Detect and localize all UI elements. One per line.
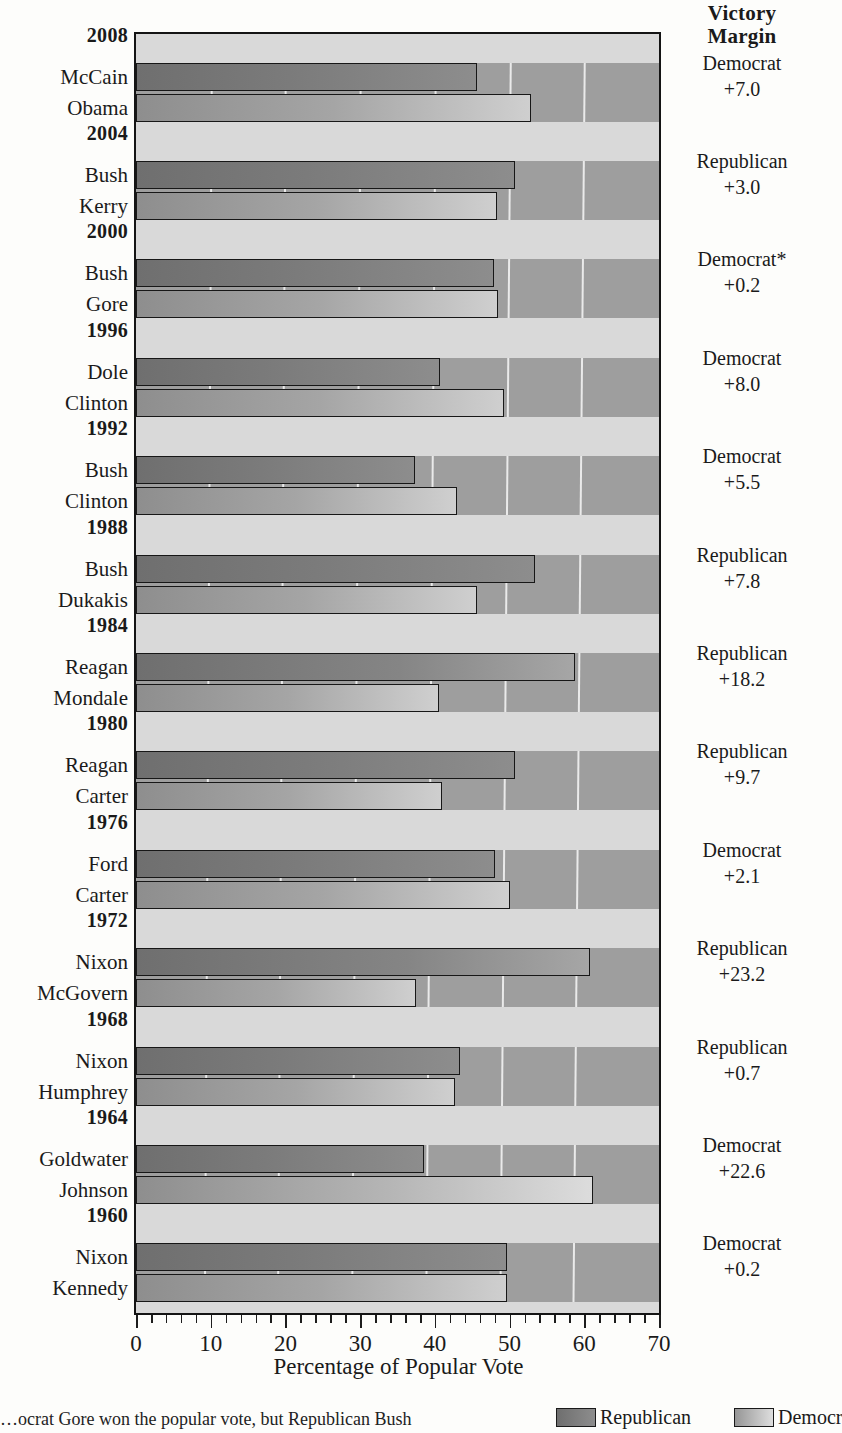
bar-democrat-2000 bbox=[136, 290, 498, 318]
candidate-label-democrat-1968: Humphrey bbox=[2, 1082, 128, 1103]
x-tick-28 bbox=[345, 1315, 347, 1323]
x-tick-62 bbox=[599, 1315, 601, 1323]
candidate-label-democrat-1972: McGovern bbox=[2, 983, 128, 1004]
bar-republican-2008 bbox=[136, 63, 477, 91]
candidate-label-republican-2000: Bush bbox=[2, 263, 128, 284]
victory-margin-value-2008: +7.0 bbox=[663, 78, 821, 100]
candidate-label-republican-1968: Nixon bbox=[2, 1051, 128, 1072]
year-label-2008: 2008 bbox=[2, 25, 128, 45]
victory-margin-party-1964: Democrat bbox=[663, 1134, 821, 1156]
x-tick-2 bbox=[151, 1315, 153, 1323]
x-tick-50 bbox=[510, 1315, 512, 1328]
victory-margin-value-2000: +0.2 bbox=[663, 274, 821, 296]
candidate-label-democrat-2004: Kerry bbox=[2, 196, 128, 217]
victory-margin-party-1980: Republican bbox=[663, 740, 821, 762]
candidate-label-democrat-1984: Mondale bbox=[2, 688, 128, 709]
row-band bbox=[136, 1116, 659, 1145]
x-tick-46 bbox=[480, 1315, 482, 1323]
x-tick-32 bbox=[375, 1315, 377, 1323]
bar-democrat-1980 bbox=[136, 782, 442, 810]
x-tick-30 bbox=[360, 1315, 362, 1328]
row-band bbox=[136, 1302, 659, 1313]
x-tick-58 bbox=[569, 1315, 571, 1323]
victory-margin-party-1996: Democrat bbox=[663, 347, 821, 369]
legend-label-republican: Republican bbox=[600, 1406, 691, 1428]
x-tick-6 bbox=[181, 1315, 183, 1323]
victory-margin-party-1968: Republican bbox=[663, 1036, 821, 1058]
year-label-2000: 2000 bbox=[2, 221, 128, 241]
bar-republican-1960 bbox=[136, 1243, 507, 1271]
x-tick-16 bbox=[256, 1315, 258, 1323]
candidate-label-republican-1984: Reagan bbox=[2, 657, 128, 678]
row-band bbox=[136, 428, 659, 457]
victory-margin-value-1980: +9.7 bbox=[663, 766, 821, 788]
candidate-label-republican-1972: Nixon bbox=[2, 952, 128, 973]
row-band bbox=[136, 417, 659, 428]
chart-footnote: …ocrat Gore won the popular vote, but Re… bbox=[0, 1408, 540, 1430]
candidate-label-democrat-1996: Clinton bbox=[2, 393, 128, 414]
x-tick-66 bbox=[629, 1315, 631, 1323]
legend-label-democrat: Democr bbox=[778, 1406, 842, 1428]
row-band bbox=[136, 1204, 659, 1215]
row-band bbox=[136, 231, 659, 260]
victory-margin-value-1960: +0.2 bbox=[663, 1258, 821, 1280]
bar-republican-1984 bbox=[136, 653, 575, 681]
bar-democrat-2004 bbox=[136, 192, 497, 220]
candidate-label-republican-2004: Bush bbox=[2, 165, 128, 186]
candidate-label-democrat-2008: Obama bbox=[2, 98, 128, 119]
bar-republican-1976 bbox=[136, 850, 495, 878]
year-label-1996: 1996 bbox=[2, 320, 128, 340]
bar-democrat-1968 bbox=[136, 1078, 455, 1106]
bar-democrat-1984 bbox=[136, 684, 439, 712]
victory-margin-party-2008: Democrat bbox=[663, 52, 821, 74]
victory-margin-value-1996: +8.0 bbox=[663, 373, 821, 395]
chart-plot-inner bbox=[136, 34, 659, 1313]
bar-republican-1988 bbox=[136, 555, 535, 583]
row-band bbox=[136, 329, 659, 358]
victory-margin-value-1988: +7.8 bbox=[663, 570, 821, 592]
row-band bbox=[136, 515, 659, 526]
candidate-label-republican-1960: Nixon bbox=[2, 1247, 128, 1268]
x-tick-18 bbox=[270, 1315, 272, 1323]
x-tick-label-60: 60 bbox=[554, 1331, 614, 1356]
row-band bbox=[136, 1106, 659, 1117]
year-label-1976: 1976 bbox=[2, 812, 128, 832]
x-tick-22 bbox=[300, 1315, 302, 1323]
candidate-label-democrat-1964: Johnson bbox=[2, 1180, 128, 1201]
x-tick-label-20: 20 bbox=[255, 1331, 315, 1356]
legend-item-democrat: Democr bbox=[734, 1406, 842, 1430]
x-tick-label-40: 40 bbox=[405, 1331, 465, 1356]
candidate-label-republican-1964: Goldwater bbox=[2, 1149, 128, 1170]
victory-margin-party-1992: Democrat bbox=[663, 445, 821, 467]
bar-republican-1968 bbox=[136, 1047, 460, 1075]
year-label-1992: 1992 bbox=[2, 418, 128, 438]
row-band bbox=[136, 220, 659, 231]
row-band bbox=[136, 318, 659, 329]
year-label-1980: 1980 bbox=[2, 713, 128, 733]
x-tick-4 bbox=[166, 1315, 168, 1323]
x-tick-12 bbox=[226, 1315, 228, 1323]
year-label-1964: 1964 bbox=[2, 1107, 128, 1127]
row-band bbox=[136, 919, 659, 948]
candidate-label-democrat-1988: Dukakis bbox=[2, 590, 128, 611]
candidate-label-democrat-2000: Gore bbox=[2, 294, 128, 315]
bar-democrat-1992 bbox=[136, 487, 457, 515]
candidate-label-republican-1976: Ford bbox=[2, 854, 128, 875]
row-band bbox=[136, 1018, 659, 1047]
bar-democrat-2008 bbox=[136, 94, 531, 122]
x-tick-label-30: 30 bbox=[330, 1331, 390, 1356]
x-tick-64 bbox=[614, 1315, 616, 1323]
victory-margin-party-1984: Republican bbox=[663, 642, 821, 664]
row-band bbox=[136, 821, 659, 850]
bar-republican-2004 bbox=[136, 161, 515, 189]
candidate-label-republican-1988: Bush bbox=[2, 559, 128, 580]
row-band bbox=[136, 712, 659, 723]
row-band bbox=[136, 132, 659, 161]
x-tick-34 bbox=[390, 1315, 392, 1323]
victory-margin-value-1976: +2.1 bbox=[663, 865, 821, 887]
x-tick-54 bbox=[539, 1315, 541, 1323]
x-tick-label-70: 70 bbox=[629, 1331, 689, 1356]
x-tick-20 bbox=[285, 1315, 287, 1328]
victory-margin-party-1976: Democrat bbox=[663, 839, 821, 861]
x-tick-70 bbox=[659, 1315, 661, 1328]
